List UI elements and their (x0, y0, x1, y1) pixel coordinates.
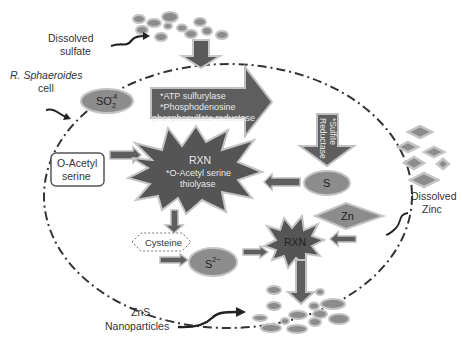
rxn-to-cysteine-arrow (165, 210, 183, 233)
svg-text:Zn: Zn (341, 210, 354, 222)
sulfur-node: S (304, 171, 350, 195)
svg-text:*Phosphodenosine: *Phosphodenosine (160, 102, 236, 112)
svg-text:R. Sphaeroides: R. Sphaeroides (10, 69, 83, 81)
enzymes-arrow: *ATP sulfurylase *Phosphodenosine phosph… (151, 67, 272, 136)
dissolved-zinc-label: Dissolved Zinc (411, 190, 457, 215)
svg-text:RXN: RXN (189, 154, 211, 166)
dissolved-sulfate-label: Dissolved sulfate (48, 32, 94, 57)
sulfur-to-rxn-arrow (264, 174, 300, 190)
svg-text:thiolyase: thiolyase (180, 179, 216, 189)
svg-text:*ATP sulfurylase: *ATP sulfurylase (160, 91, 226, 101)
cell-pointer-arrow (46, 110, 66, 117)
o-acetyl-serine-node: O-Acetyl serine (51, 153, 104, 186)
rxn-zns-burst: RXN (264, 216, 324, 268)
svg-text:O-Acetyl: O-Acetyl (57, 157, 97, 169)
svg-text:Cysteine: Cysteine (145, 237, 182, 248)
svg-text:Nanoparticles: Nanoparticles (105, 320, 169, 332)
svg-text:S: S (323, 177, 330, 189)
sulfate-pointer-arrow (111, 36, 145, 46)
cell-label: R. Sphaeroides cell (10, 69, 83, 94)
svg-text:Dissolved: Dissolved (411, 190, 457, 202)
sulfite-reductase-arrow: *Sulfite Reductase (300, 114, 354, 166)
sulfate-ion-node: SO2-4 (81, 89, 133, 113)
biosynthesis-diagram: Dissolved sulfate R. Sphaeroides cell SO… (0, 0, 462, 343)
to-sulfide-arrow (160, 254, 188, 266)
rxn-thiolyase-burst: RXN *O-Acetyl serine thiolyase (128, 126, 262, 214)
zinc-to-rxn-arrow (330, 232, 356, 246)
svg-text:*Sulfite: *Sulfite (328, 118, 338, 145)
svg-text:Dissolved: Dissolved (48, 32, 94, 44)
svg-text:serine: serine (62, 170, 91, 182)
sulfide-to-rxn-arrow (243, 246, 268, 258)
svg-text:ZnS: ZnS (131, 306, 150, 318)
cysteine-node: Cysteine (132, 233, 191, 251)
svg-text:Zinc: Zinc (422, 203, 442, 215)
svg-text:RXN: RXN (284, 236, 306, 248)
zinc-pointer-arrow (386, 213, 408, 235)
svg-text:Reductase: Reductase (318, 118, 328, 159)
arrowhead-icon (236, 307, 246, 317)
rxn-to-nanoparticles-arrow (288, 260, 314, 304)
svg-text:*O-Acetyl serine: *O-Acetyl serine (166, 168, 231, 178)
svg-text:cell: cell (38, 82, 54, 94)
sulfide-node: S2− (189, 248, 237, 276)
zinc-node: Zn (315, 203, 383, 229)
svg-text:phosphosulfate reductase: phosphosulfate reductase (152, 113, 255, 123)
zinc-particles (398, 126, 449, 187)
svg-text:sulfate: sulfate (60, 45, 91, 57)
